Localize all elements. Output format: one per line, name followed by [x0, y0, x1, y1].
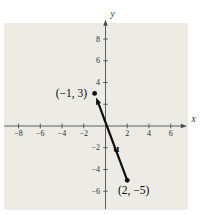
- x-axis-label: x: [190, 114, 196, 124]
- x-tick-label: 4: [147, 129, 151, 138]
- x-tick-label: −2: [80, 129, 89, 138]
- point-label: (2, −5): [118, 184, 150, 197]
- point-dot: [125, 178, 130, 183]
- x-tick-label: −4: [58, 129, 67, 138]
- vector-component-figure: xy−8−6−4−2246864−2−4−6(−1, 3)(2, −5)u: [0, 0, 204, 214]
- y-tick-label: 4: [96, 78, 100, 87]
- x-tick-label: 6: [169, 129, 173, 138]
- y-tick-label: 8: [96, 35, 100, 44]
- x-tick-label: −8: [14, 129, 23, 138]
- x-tick-label: −6: [36, 129, 45, 138]
- y-tick-label: 6: [96, 56, 100, 65]
- y-axis-arrowhead: [103, 20, 107, 26]
- plot-panel: [4, 23, 188, 210]
- point-dot: [92, 91, 97, 96]
- x-tick-label: 2: [125, 129, 129, 138]
- coordinate-plane: xy−8−6−4−2246864−2−4−6(−1, 3)(2, −5)u: [0, 0, 204, 214]
- vector-u-label: u: [113, 142, 119, 154]
- point-label: (−1, 3): [56, 87, 88, 100]
- y-tick-label: −2: [91, 143, 100, 152]
- y-axis-label: y: [109, 9, 115, 19]
- y-tick-label: −6: [91, 187, 100, 196]
- y-tick-label: −4: [91, 165, 100, 174]
